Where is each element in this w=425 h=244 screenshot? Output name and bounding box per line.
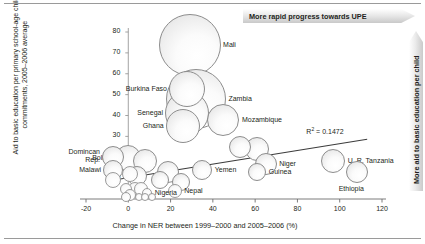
x-tick-label: 100 (327, 205, 353, 212)
x-tick-label: 40 (200, 205, 226, 212)
bubble-unlabeled[interactable] (229, 136, 251, 158)
r2-value: = 0.1472 (314, 128, 343, 135)
point-label: Zambia (228, 95, 251, 102)
point-label: Nigeria (155, 189, 177, 196)
point-label: Malawi (79, 166, 101, 173)
bubble-layer: 8070605040302010-20020406080100120MaliZa… (0, 0, 425, 244)
x-tick-label: 0 (115, 205, 141, 212)
bubble-unlabeled[interactable] (105, 172, 121, 188)
x-tick-label: 80 (284, 205, 310, 212)
point-label: Niger (279, 160, 296, 167)
y-tick-label: 40 (98, 111, 120, 118)
bubble-mali[interactable] (159, 14, 221, 76)
bubble-ghana[interactable] (166, 109, 200, 143)
bubble-mozambique[interactable] (207, 104, 239, 136)
point-label: Burkina Faso (126, 85, 167, 92)
figure-container: More rapid progress towards UPE More aid… (0, 0, 425, 244)
bubble-unlabeled[interactable] (121, 192, 131, 202)
y-tick-label: 80 (98, 27, 120, 34)
point-label: Ghana (143, 122, 164, 129)
x-tick-label: 20 (158, 205, 184, 212)
point-label: Senegal (137, 109, 163, 116)
y-tick-label: 50 (98, 90, 120, 97)
point-label: Ethiopia (339, 185, 364, 192)
point-label: Guinea (269, 168, 292, 175)
point-label: Mozambique (242, 116, 282, 123)
x-tick-label: 60 (242, 205, 268, 212)
bubble-unlabeled[interactable] (148, 193, 156, 201)
y-tick-label: 60 (98, 69, 120, 76)
point-label: Yemen (215, 166, 237, 173)
bubble-guinea[interactable] (248, 163, 266, 181)
bubble-yemen[interactable] (192, 160, 212, 180)
y-tick-label: 70 (98, 48, 120, 55)
bubble-ethiopia[interactable] (346, 161, 368, 183)
x-tick-label: -20 (73, 205, 99, 212)
point-label: Nepal (184, 187, 202, 194)
bubble-unlabeled[interactable] (151, 171, 169, 189)
x-tick-label: 120 (369, 205, 395, 212)
point-label: DomincanRep. (68, 148, 100, 164)
bubble-u-r-tanzania[interactable] (321, 149, 345, 173)
y-tick-label: 30 (98, 131, 120, 138)
point-label: Mali (223, 41, 236, 48)
r-squared-annotation: R2 = 0.1472 (306, 126, 343, 135)
